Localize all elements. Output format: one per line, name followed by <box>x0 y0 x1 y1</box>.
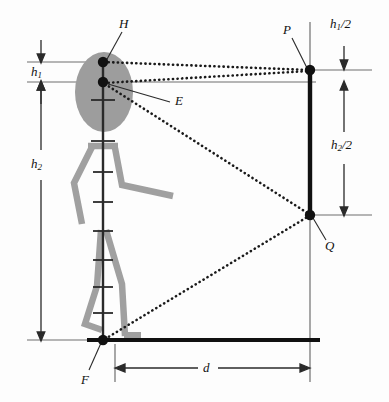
label-h2-half-divisor: /2 <box>342 137 352 152</box>
point-Q-marker <box>305 210 315 220</box>
label-P: P <box>283 23 291 36</box>
ray-P-to-eye <box>104 71 309 83</box>
h2-dimension <box>33 81 51 341</box>
label-h2-half: h2/2 <box>331 138 352 153</box>
label-h2-subscript: 2 <box>38 162 43 172</box>
h1-half-arrowhead <box>340 60 348 70</box>
point-H-marker <box>98 57 108 67</box>
label-H: H <box>119 17 128 30</box>
back-leg <box>85 230 102 330</box>
front-arm <box>115 148 173 196</box>
label-Q: Q <box>325 239 334 252</box>
label-F: F <box>81 373 89 386</box>
h1-half-dimension <box>340 46 348 70</box>
distance-left-arrowhead <box>115 364 125 372</box>
stick-figure-limbs <box>74 146 173 336</box>
mirror-geometry-diagram: H E F P Q h1 h2 h1/2 h2/2 d <box>0 0 389 402</box>
front-leg <box>106 230 125 336</box>
distance-dimension <box>115 358 310 378</box>
label-E: E <box>175 94 183 107</box>
label-h2: h2 <box>31 157 42 172</box>
label-h1-subscript: 1 <box>38 70 43 80</box>
ray-Q-to-foot <box>105 216 309 339</box>
vertical-guides <box>115 22 310 382</box>
label-h1-half: h1/2 <box>330 17 351 32</box>
point-E-marker <box>98 77 108 87</box>
leader-P <box>292 38 307 68</box>
label-h1: h1 <box>31 65 42 80</box>
label-h1-half-divisor: /2 <box>341 16 351 31</box>
label-d: d <box>203 361 210 374</box>
sight-rays <box>104 62 309 339</box>
diagram-canvas <box>0 0 389 402</box>
leader-F <box>89 343 101 370</box>
ray-eye-to-Q <box>105 84 309 214</box>
point-F-marker <box>98 335 108 345</box>
h2-half-upper-arrowhead <box>340 81 348 90</box>
leader-Q <box>313 218 326 240</box>
point-P-marker <box>305 65 315 75</box>
distance-right-arrowhead <box>300 364 310 372</box>
ray-head-to-P <box>104 62 309 70</box>
back-arm <box>74 147 92 224</box>
